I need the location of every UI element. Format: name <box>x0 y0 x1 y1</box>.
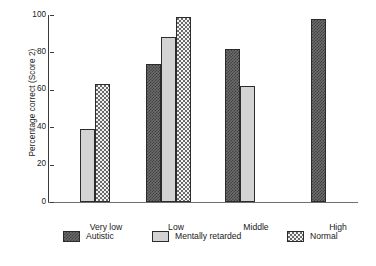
y-tick-label-100: 100 <box>32 10 46 19</box>
y-tick-80: 80 <box>16 52 54 53</box>
y-tick-20: 20 <box>16 165 54 166</box>
y-tick-mark <box>50 165 54 166</box>
bar-group-low <box>146 15 208 202</box>
y-axis-title: Percentage correct (Score 2) <box>28 8 37 198</box>
legend-label-autistic: Autistic <box>86 231 114 241</box>
bar-middle-autistic <box>225 49 240 202</box>
legend-swatch-normal-icon <box>287 231 304 242</box>
y-tick-label-60: 60 <box>37 84 46 93</box>
y-axis-line <box>48 15 49 203</box>
y-tick-label-0: 0 <box>41 197 46 206</box>
bar-middle-mentally-retarded <box>240 86 255 202</box>
bar-chart-figure: Percentage correct (Score 2) 100 80 60 4… <box>0 0 376 266</box>
bar-low-mentally-retarded <box>161 37 176 202</box>
bar-low-normal <box>176 17 191 202</box>
y-tick-label-40: 40 <box>37 122 46 131</box>
figure-caption <box>0 259 376 266</box>
bar-very-low-mentally-retarded <box>80 129 95 202</box>
y-tick-100: 100 <box>16 15 54 16</box>
bar-group-middle <box>225 15 287 202</box>
y-tick-40: 40 <box>16 127 54 128</box>
y-tick-0: 0 <box>16 202 54 203</box>
legend-label-normal: Normal <box>310 231 338 241</box>
bar-group-very-low <box>64 15 126 202</box>
bar-low-autistic <box>146 64 161 202</box>
y-tick-mark <box>50 15 54 16</box>
bar-very-low-normal <box>95 84 110 202</box>
plot-area: 100 80 60 40 20 0 <box>48 15 358 202</box>
bar-high-autistic <box>311 19 326 202</box>
legend-swatch-autistic-icon <box>63 231 80 242</box>
legend-label-mentally-retarded: Mentally retarded <box>175 231 241 241</box>
legend-swatch-mentally-retarded-icon <box>152 231 169 242</box>
y-tick-label-80: 80 <box>37 47 46 56</box>
chart-legend: Autistic Mentally retarded Normal <box>0 229 376 245</box>
y-tick-mark <box>50 202 54 203</box>
legend-item-mentally-retarded: Mentally retarded <box>152 229 241 243</box>
y-tick-label-20: 20 <box>37 159 46 168</box>
y-tick-60: 60 <box>16 90 54 91</box>
legend-item-autistic: Autistic <box>63 229 114 243</box>
legend-item-normal: Normal <box>287 229 338 243</box>
x-axis-line <box>48 202 358 203</box>
y-tick-mark <box>50 127 54 128</box>
y-tick-mark <box>50 52 54 53</box>
y-tick-mark <box>50 90 54 91</box>
bar-group-high <box>311 15 373 202</box>
